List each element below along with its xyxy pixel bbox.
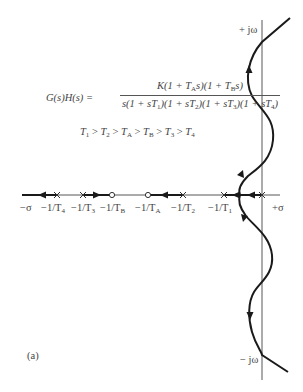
root-locus-plot: [0, 0, 303, 392]
zero-ta-icon: [145, 192, 150, 197]
real-neg-label: −σ: [20, 203, 32, 214]
time-constant-inequality: T1 > T2 > TA > TB > T3 > T4: [80, 126, 195, 139]
imag-neg-label: − jω: [240, 355, 258, 366]
zero-tb-icon: [109, 192, 114, 197]
label-t1: −1/T1: [208, 203, 232, 215]
imag-pos-label: + jω: [239, 25, 257, 36]
transfer-function-equation: G(s)H(s) =: [46, 92, 93, 103]
label-ta: −1/TA: [135, 203, 161, 215]
equation-lhs: G(s)H(s) =: [46, 92, 93, 103]
figure-label: (a): [27, 351, 39, 362]
equation-numerator: K(1 + TAs)(1 + TBs): [120, 80, 280, 96]
label-t4: −1/T4: [41, 203, 65, 215]
real-pos-label: +σ: [272, 203, 284, 214]
label-t2: −1/T2: [171, 203, 195, 215]
equation-denominator: s(1 + sT1)(1 + sT2)(1 + sT3)(1 + sT4): [120, 96, 280, 111]
equation-fraction: K(1 + TAs)(1 + TBs) s(1 + sT1)(1 + sT2)(…: [120, 80, 280, 111]
locus-lower-branch: [239, 195, 288, 372]
label-t3: −1/T3: [71, 203, 95, 215]
label-tb: −1/TB: [100, 203, 125, 215]
